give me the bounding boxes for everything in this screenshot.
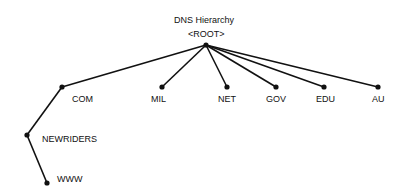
node-label-com: COM [72,94,93,104]
root-label: <ROOT> [188,29,225,39]
node-label-mil: MIL [151,94,166,104]
edge-com-newriders [27,87,62,135]
node-label-net: NET [218,94,236,104]
node-label-newriders: NEWRIDERS [42,134,97,144]
node-dot-net [224,84,229,89]
node-dot-au [375,84,380,89]
node-dot-gov [273,84,278,89]
node-label-edu: EDU [316,94,335,104]
node-dot-edu [321,84,326,89]
node-label-www: WWW [57,174,82,184]
node-dot-www [44,180,49,185]
diagram-title: DNS Hierarchy [174,15,234,25]
node-label-gov: GOV [266,94,286,104]
node-dot-com [59,84,64,89]
node-label-au: AU [372,94,385,104]
node-dot-mil [159,84,164,89]
node-dot-newriders [24,132,29,137]
edge-root-au [206,45,378,87]
node-dot-root [203,42,208,47]
